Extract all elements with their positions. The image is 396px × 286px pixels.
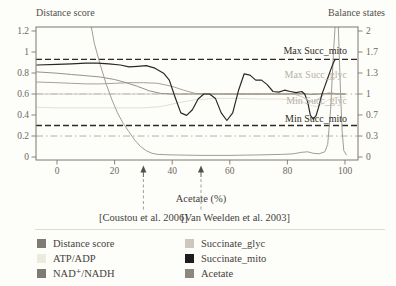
- x-tick-label: 100: [338, 166, 353, 176]
- legend-label: Acetate: [201, 266, 233, 281]
- legend-divider: [35, 229, 385, 230]
- series-distance-score: [90, 15, 346, 155]
- ref-label-min_succ_mito: Min Succ_mito: [285, 113, 347, 124]
- legend-item-nad-nadh: NAD⁺/NADH: [37, 266, 115, 281]
- chart-plot: Max Succ_mitoMax Succ_glycMin Succ_glycM…: [0, 0, 396, 232]
- legend-item-acetate: Acetate: [185, 266, 266, 281]
- y-right-tick-label: 1.3: [366, 68, 378, 78]
- legend-item-succinate-glyc: Succinate_glyc: [185, 236, 266, 251]
- legend-swatch-icon: [185, 269, 194, 278]
- y-right-tick-label: 2: [366, 26, 371, 36]
- y-right-tick-label: 1: [366, 89, 371, 99]
- legend-swatch-icon: [37, 269, 46, 278]
- x-tick-label: 40: [167, 166, 177, 176]
- legend-item-atp-adp: ATP/ADP: [37, 251, 115, 266]
- y-right-axis-title: Balance states: [328, 7, 385, 18]
- legend-item-distance-score: Distance score: [37, 236, 115, 251]
- chart-legend: Distance scoreATP/ADPNAD⁺/NADHSuccinate_…: [0, 232, 396, 286]
- ref-label-max_succ_glyc: Max Succ_glyc: [285, 69, 348, 80]
- x-tick-label: 60: [225, 166, 235, 176]
- citation-label-0: [Coustou et al. 2006]: [99, 212, 188, 223]
- y-left-tick-label: 0: [24, 152, 29, 162]
- legend-column-0: Distance scoreATP/ADPNAD⁺/NADH: [37, 236, 115, 281]
- y-left-tick-label: 0.2: [17, 131, 29, 141]
- legend-swatch-icon: [37, 239, 46, 248]
- y-left-axis-title: Distance score: [36, 7, 95, 18]
- legend-label: NAD⁺/NADH: [53, 266, 115, 281]
- y-right-tick-label: 0.7: [366, 110, 378, 120]
- figure: Max Succ_mitoMax Succ_glycMin Succ_glycM…: [0, 0, 396, 286]
- legend-label: Distance score: [53, 236, 115, 251]
- x-tick-label: 20: [110, 166, 120, 176]
- x-tick-label: 0: [55, 166, 60, 176]
- y-right-tick-label: 0: [366, 152, 371, 162]
- y-left-tick-label: 0.4: [17, 110, 29, 120]
- ref-label-max_succ_mito: Max Succ_mito: [283, 45, 347, 56]
- y-left-tick-label: 1: [24, 47, 29, 57]
- legend-column-1: Succinate_glycSuccinate_mitoAcetate: [185, 236, 266, 281]
- legend-label: Succinate_mito: [201, 251, 266, 266]
- y-right-tick-label: 0.3: [366, 131, 378, 141]
- citation-label-1: [Van Weelden et al. 2003]: [181, 212, 290, 223]
- legend-label: ATP/ADP: [53, 251, 96, 266]
- legend-swatch-icon: [185, 254, 194, 263]
- legend-item-succinate-mito: Succinate_mito: [185, 251, 266, 266]
- legend-swatch-icon: [37, 254, 46, 263]
- legend-swatch-icon: [185, 239, 194, 248]
- series-group: [37, 15, 347, 155]
- y-right-tick-label: 1.7: [366, 47, 378, 57]
- ref-label-min_succ_glyc: Min Succ_glyc: [286, 95, 347, 106]
- y-left-tick-label: 1.2: [17, 26, 29, 36]
- y-left-tick-label: 0.8: [17, 68, 29, 78]
- y-left-tick-label: 0.6: [17, 89, 29, 99]
- legend-label: Succinate_glyc: [201, 236, 265, 251]
- x-tick-label: 80: [283, 166, 293, 176]
